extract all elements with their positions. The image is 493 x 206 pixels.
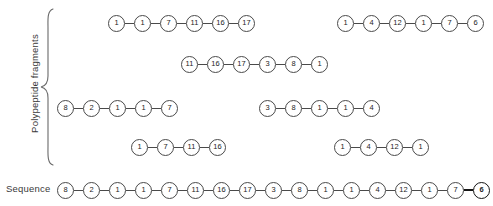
residue-node: 1 <box>421 182 438 199</box>
chain-link <box>224 64 233 65</box>
chain-link <box>250 64 259 65</box>
residue-node: 17 <box>238 15 255 32</box>
residue-node: 4 <box>363 15 380 32</box>
chain-link <box>230 190 239 191</box>
chain-link <box>380 23 389 24</box>
chain-link <box>464 189 473 191</box>
residue-node: 4 <box>360 139 377 156</box>
residue-node: 8 <box>285 100 302 117</box>
residue-node: 16 <box>213 182 230 199</box>
fragments-brace <box>40 8 56 166</box>
residue-node: 3 <box>259 56 276 73</box>
chain-link <box>125 23 134 24</box>
chain-link <box>351 147 360 148</box>
residue-node: 6 <box>467 15 484 32</box>
chain-link <box>200 147 209 148</box>
chain-link <box>328 108 337 109</box>
chain-link <box>308 190 317 191</box>
residue-node: 12 <box>389 15 406 32</box>
chain-link <box>438 190 447 191</box>
residue-node: 12 <box>386 139 403 156</box>
brace-icon <box>40 8 56 166</box>
chain-link <box>204 190 213 191</box>
residue-node: 16 <box>207 56 224 73</box>
residue-node: 1 <box>317 182 334 199</box>
chain-link <box>302 108 311 109</box>
fragment-row2: 111617381 <box>181 55 328 73</box>
residue-node: 1 <box>343 182 360 199</box>
residue-node: 11 <box>183 139 200 156</box>
residue-node: 8 <box>57 182 74 199</box>
fragment-row4-right: 14121 <box>334 138 429 156</box>
polypeptide-fragments-label: Polypeptide fragments <box>29 4 40 164</box>
residue-node: 17 <box>239 182 256 199</box>
residue-node: 1 <box>311 100 328 117</box>
residue-node: 1 <box>108 15 125 32</box>
chain-link <box>406 23 415 24</box>
residue-node: 7 <box>160 15 177 32</box>
fragment-row1-left: 117111617 <box>108 14 255 32</box>
residue-node: 1 <box>109 182 126 199</box>
residue-node: 11 <box>187 182 204 199</box>
chain-link <box>177 23 186 24</box>
residue-node: 12 <box>395 182 412 199</box>
chain-link <box>178 190 187 191</box>
chain-link <box>100 108 109 109</box>
residue-node: 8 <box>285 56 302 73</box>
residue-node: 1 <box>131 139 148 156</box>
chain-link <box>302 64 311 65</box>
chain-link <box>203 23 212 24</box>
residue-node: 16 <box>209 139 226 156</box>
chain-link <box>354 23 363 24</box>
residue-node: 17 <box>233 56 250 73</box>
residue-node: 1 <box>135 182 152 199</box>
chain-link <box>152 190 161 191</box>
chain-link <box>377 147 386 148</box>
chain-link <box>198 64 207 65</box>
residue-node: 3 <box>259 100 276 117</box>
fragment-row3-right: 38114 <box>259 99 380 117</box>
chain-link <box>458 23 467 24</box>
residue-node: 11 <box>186 15 203 32</box>
sequence-chain: 821171116173811412176 <box>57 181 490 199</box>
residue-node: 4 <box>369 182 386 199</box>
chain-link <box>354 108 363 109</box>
residue-node: 4 <box>363 100 380 117</box>
diagram-canvas: Polypeptide fragments Sequence 117111617… <box>0 0 493 206</box>
chain-link <box>229 23 238 24</box>
chain-link <box>100 190 109 191</box>
residue-node: 7 <box>157 139 174 156</box>
residue-node: 1 <box>311 56 328 73</box>
chain-link <box>74 190 83 191</box>
residue-node: 7 <box>161 100 178 117</box>
chain-link <box>152 108 161 109</box>
residue-node: 6 <box>473 182 490 199</box>
residue-node: 1 <box>337 15 354 32</box>
residue-node: 1 <box>134 15 151 32</box>
chain-link <box>334 190 343 191</box>
chain-link <box>126 108 135 109</box>
chain-link <box>432 23 441 24</box>
sequence-label: Sequence <box>6 183 50 194</box>
chain-link <box>403 147 412 148</box>
residue-node: 11 <box>181 56 198 73</box>
chain-link <box>148 147 157 148</box>
chain-link <box>256 190 265 191</box>
residue-node: 7 <box>161 182 178 199</box>
chain-link <box>360 190 369 191</box>
chain-link <box>412 190 421 191</box>
chain-link <box>126 190 135 191</box>
residue-node: 1 <box>337 100 354 117</box>
chain-link <box>174 147 183 148</box>
residue-node: 1 <box>415 15 432 32</box>
chain-link <box>386 190 395 191</box>
fragment-row3-left: 82117 <box>57 99 178 117</box>
residue-node: 16 <box>212 15 229 32</box>
chain-link <box>276 64 285 65</box>
residue-node: 1 <box>412 139 429 156</box>
fragment-row1-right: 1412176 <box>337 14 484 32</box>
residue-node: 2 <box>83 100 100 117</box>
residue-node: 8 <box>291 182 308 199</box>
residue-node: 8 <box>57 100 74 117</box>
chain-link <box>276 108 285 109</box>
